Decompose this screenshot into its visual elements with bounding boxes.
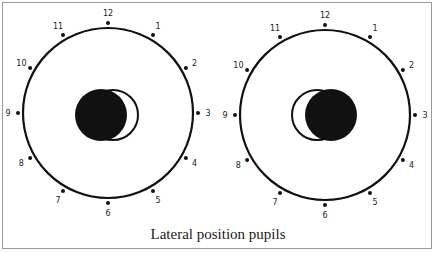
clock-dot-4 bbox=[401, 158, 405, 162]
clock-label-7: 7 bbox=[55, 196, 60, 205]
clock-label-8: 8 bbox=[19, 159, 24, 168]
clock-label-4: 4 bbox=[192, 159, 197, 168]
clock-label-7: 7 bbox=[272, 198, 277, 207]
clock-label-10: 10 bbox=[16, 59, 26, 68]
clock-dot-3 bbox=[413, 113, 417, 117]
pupil-diagram: 121234567891011121234567891011 bbox=[0, 0, 436, 253]
pupil-filled bbox=[75, 89, 127, 141]
figure-caption: Lateral position pupils bbox=[0, 226, 436, 243]
clock-dot-3 bbox=[196, 111, 200, 115]
clock-label-2: 2 bbox=[409, 61, 414, 70]
clock-label-11: 11 bbox=[270, 24, 280, 33]
clock-dot-8 bbox=[28, 156, 32, 160]
clock-label-8: 8 bbox=[236, 161, 241, 170]
clock-label-10: 10 bbox=[233, 61, 243, 70]
clock-dot-12 bbox=[106, 21, 110, 25]
clock-dot-7 bbox=[278, 191, 282, 195]
clock-dot-11 bbox=[278, 35, 282, 39]
clock-dot-6 bbox=[106, 201, 110, 205]
clock-dot-8 bbox=[245, 158, 249, 162]
clock-dot-6 bbox=[323, 203, 327, 207]
pupil-filled bbox=[305, 89, 357, 141]
clock-label-6: 6 bbox=[322, 211, 327, 220]
clock-dot-2 bbox=[184, 66, 188, 70]
clock-dot-9 bbox=[233, 113, 237, 117]
clock-label-9: 9 bbox=[5, 109, 10, 118]
clock-label-6: 6 bbox=[105, 209, 110, 218]
clock-dot-9 bbox=[16, 111, 20, 115]
clock-dot-5 bbox=[368, 191, 372, 195]
clock-label-12: 12 bbox=[103, 9, 113, 18]
clock-dot-12 bbox=[323, 23, 327, 27]
clock-dot-10 bbox=[245, 68, 249, 72]
clock-dot-1 bbox=[151, 33, 155, 37]
clock-dot-1 bbox=[368, 35, 372, 39]
clock-dot-2 bbox=[401, 68, 405, 72]
clock-label-3: 3 bbox=[422, 111, 427, 120]
clock-label-11: 11 bbox=[53, 22, 63, 31]
clock-dot-11 bbox=[61, 33, 65, 37]
clock-label-9: 9 bbox=[222, 111, 227, 120]
clock-label-5: 5 bbox=[155, 196, 160, 205]
clock-label-5: 5 bbox=[372, 198, 377, 207]
clock-label-1: 1 bbox=[372, 24, 377, 33]
left-eye: 121234567891011 bbox=[5, 9, 210, 218]
clock-label-1: 1 bbox=[155, 22, 160, 31]
clock-dot-10 bbox=[28, 66, 32, 70]
clock-dot-4 bbox=[184, 156, 188, 160]
right-eye: 121234567891011 bbox=[222, 11, 427, 220]
clock-label-4: 4 bbox=[409, 161, 414, 170]
clock-dot-7 bbox=[61, 189, 65, 193]
clock-dot-5 bbox=[151, 189, 155, 193]
clock-label-3: 3 bbox=[205, 109, 210, 118]
clock-label-12: 12 bbox=[320, 11, 330, 20]
clock-label-2: 2 bbox=[192, 59, 197, 68]
